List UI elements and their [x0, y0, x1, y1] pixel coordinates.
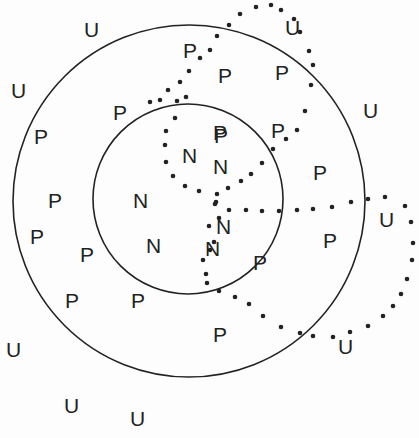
label-p: P: [275, 61, 289, 84]
curve-dot: [330, 205, 335, 210]
curve-dot: [148, 100, 153, 105]
label-p: P: [213, 323, 227, 346]
label-p: P: [183, 39, 197, 62]
label-u: U: [285, 16, 300, 39]
curve-dot: [166, 88, 171, 93]
curve-dot: [279, 325, 284, 330]
label-p: P: [271, 119, 285, 142]
label-u: U: [6, 338, 21, 361]
curve-dot: [164, 129, 169, 134]
curve-dot: [366, 197, 371, 202]
curve-dot: [409, 220, 414, 225]
label-n: N: [146, 234, 161, 257]
curve-dot: [205, 281, 210, 286]
curve-dot: [383, 195, 388, 200]
curve-dot: [198, 56, 203, 61]
curve-dot: [178, 80, 183, 85]
diagram-canvas: UUUUUUUUUPPPPPPPPPPPPPPPPPNNNNNN: [0, 0, 419, 438]
curve-dot: [279, 8, 284, 13]
curve-dot: [261, 314, 266, 319]
curve-dot: [311, 207, 316, 212]
label-u: U: [363, 99, 378, 122]
curve-dot: [254, 5, 259, 10]
curve-dot: [309, 83, 314, 88]
curve-dot: [381, 314, 386, 319]
curve-dot: [226, 186, 231, 191]
label-p: P: [253, 251, 267, 274]
curve-dot: [227, 23, 232, 28]
curve-dot: [187, 69, 192, 74]
curve-dot: [295, 128, 300, 133]
curve-dot: [163, 143, 168, 148]
label-n: N: [182, 144, 197, 167]
label-u: U: [130, 407, 145, 430]
curve-dot: [204, 272, 209, 277]
curve-dot: [173, 116, 178, 121]
label-u: U: [64, 394, 79, 417]
curve-dot: [366, 324, 371, 329]
venn-diagram: UUUUUUUUUPPPPPPPPPPPPPPPPPNNNNNN: [0, 0, 419, 438]
curve-dot: [213, 202, 218, 207]
curve-dot: [303, 109, 308, 114]
curve-dot: [158, 98, 163, 103]
curve-dot: [307, 49, 312, 54]
curve-dot: [403, 204, 408, 209]
curve-dot: [207, 224, 212, 229]
label-n: N: [133, 189, 148, 212]
curve-dot: [298, 331, 303, 336]
curve-dot: [311, 334, 316, 339]
curve-dot: [269, 3, 274, 8]
curve-dot: [217, 289, 222, 294]
curve-dot: [411, 241, 416, 246]
label-p: P: [313, 161, 327, 184]
label-u: U: [338, 335, 353, 358]
curve-dot: [277, 209, 282, 214]
curve-dot: [215, 192, 220, 197]
label-p: P: [48, 189, 62, 212]
curve-dot: [391, 304, 396, 309]
curve-dot: [410, 258, 415, 263]
label-p: P: [323, 229, 337, 252]
curve-dot: [175, 99, 180, 104]
curve-dot: [260, 209, 265, 214]
label-p: P: [214, 124, 228, 147]
label-p: P: [218, 64, 232, 87]
curve-dot: [348, 330, 353, 335]
curve-dot: [399, 292, 404, 297]
curve-dot: [311, 63, 316, 68]
curve-dot: [405, 277, 410, 282]
label-n: N: [205, 237, 220, 260]
curve-dot: [331, 335, 336, 340]
label-p: P: [113, 101, 127, 124]
label-p: P: [34, 125, 48, 148]
label-n: N: [216, 215, 231, 238]
curve-dot: [171, 174, 176, 179]
curve-dot: [197, 189, 202, 194]
label-u: U: [84, 18, 99, 41]
curve-dot: [244, 208, 249, 213]
curve-dot: [184, 95, 189, 100]
label-p: P: [65, 289, 79, 312]
label-p: P: [30, 225, 44, 248]
label-p: P: [131, 289, 145, 312]
curve-dot: [247, 302, 252, 307]
curve-dot: [249, 172, 254, 177]
curve-dot: [295, 208, 300, 213]
curve-dot: [215, 34, 220, 39]
curve-dot: [260, 161, 265, 166]
curve-dot: [238, 12, 243, 17]
curve-dot: [349, 200, 354, 205]
label-u: U: [11, 79, 26, 102]
outer-circle: [13, 25, 365, 377]
curve-dot: [183, 184, 188, 189]
curve-dot: [227, 208, 232, 213]
label-u: U: [379, 208, 394, 231]
label-n: N: [213, 155, 228, 178]
curve-dot: [239, 179, 244, 184]
curve-dot: [271, 147, 276, 152]
curve-dot: [208, 48, 213, 53]
curve-dot: [164, 160, 169, 165]
label-p: P: [80, 243, 94, 266]
curve-dot: [233, 295, 238, 300]
